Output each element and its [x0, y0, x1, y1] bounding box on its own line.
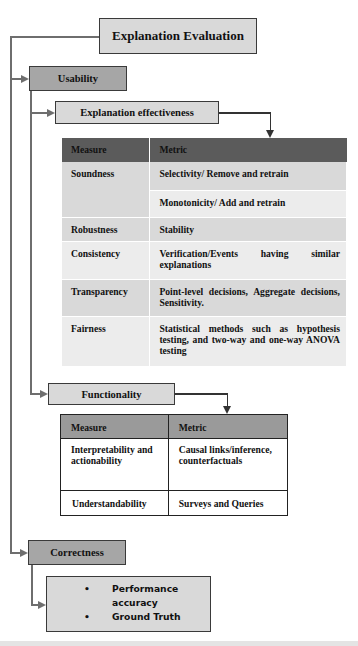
table-header-row: Measure Metric	[61, 415, 288, 439]
cell-metric: Statistical methods such as hypothesis t…	[150, 316, 347, 366]
node-explanation-effectiveness: Explanation effectiveness	[55, 101, 219, 124]
cell-metric: Causal links/inference, counterfactuals	[168, 439, 287, 491]
table-row: Transparency Point-level decisions, Aggr…	[62, 279, 347, 316]
arrow-down-icon	[223, 406, 231, 414]
cell-measure: Understandability	[61, 491, 169, 516]
connector-ee-to-table-down	[270, 112, 272, 131]
arrow-right-icon	[21, 75, 29, 83]
cell-metric: Surveys and Queries	[168, 491, 287, 516]
arrow-right-icon	[38, 601, 46, 609]
connector-ee-to-table	[219, 112, 271, 114]
cell-measure: Interpretability and actionability	[61, 439, 169, 491]
table-header-row: Measure Metric	[62, 138, 347, 162]
list-item-text: Performance accuracy	[112, 582, 182, 610]
list-item: • Performance accuracy	[62, 582, 210, 610]
cell-measure: Robustness	[62, 217, 150, 241]
header-measure: Measure	[61, 415, 169, 439]
arrow-right-icon	[40, 390, 48, 398]
arrow-right-icon	[47, 109, 55, 117]
root-node-label: Explanation Evaluation	[112, 28, 244, 44]
table-row: Consistency Verification/Events having s…	[62, 241, 347, 279]
cell-metric: Monotonicity/ Add and retrain	[150, 190, 347, 217]
arrow-down-icon	[266, 130, 274, 138]
table-row: Understandability Surveys and Queries	[61, 491, 288, 516]
connector-root-horizontal	[11, 36, 99, 38]
node-correctness: Correctness	[28, 540, 126, 565]
list-item-text: Ground Truth	[112, 610, 181, 624]
node-correctness-details: • Performance accuracy • Ground Truth	[46, 576, 211, 632]
bottom-edge-band	[0, 641, 358, 646]
table-row: Fairness Statistical methods such as hyp…	[62, 316, 347, 366]
connector-correctness-spine	[31, 565, 33, 606]
usability-label: Usability	[58, 73, 98, 84]
connector-func-to-table-down	[227, 393, 229, 407]
bullet-icon: •	[62, 610, 112, 624]
header-metric: Metric	[168, 415, 287, 439]
connector-usability-spine	[30, 91, 32, 395]
functionality-label: Functionality	[81, 389, 141, 400]
correctness-label: Correctness	[50, 547, 103, 558]
cell-measure: Fairness	[62, 316, 150, 366]
table-row: Soundness Selectivity/ Remove and retrai…	[62, 162, 347, 190]
list-item: • Ground Truth	[62, 610, 210, 624]
connector-to-explanation-effectiveness	[31, 112, 48, 114]
cell-metric: Verification/Events having similar expla…	[150, 241, 347, 279]
table-row: Robustness Stability	[62, 217, 347, 241]
header-measure: Measure	[62, 138, 150, 162]
correctness-bullet-list: • Performance accuracy • Ground Truth	[62, 582, 210, 624]
header-metric: Metric	[150, 138, 347, 162]
root-node-explanation-evaluation: Explanation Evaluation	[99, 18, 257, 54]
explanation-effectiveness-label: Explanation effectiveness	[80, 107, 193, 118]
node-usability: Usability	[29, 66, 127, 91]
cell-measure: Soundness	[62, 162, 150, 217]
explanation-effectiveness-table: Measure Metric Soundness Selectivity/ Re…	[62, 138, 347, 367]
connector-func-to-table	[175, 393, 228, 395]
cell-measure: Consistency	[62, 241, 150, 279]
table-row: Interpretability and actionability Causa…	[61, 439, 288, 491]
cell-measure: Transparency	[62, 279, 150, 316]
arrow-right-icon	[20, 549, 28, 557]
cell-metric: Selectivity/ Remove and retrain	[150, 162, 347, 190]
connector-main-spine	[10, 36, 12, 554]
cell-metric: Point-level decisions, Aggregate decisio…	[150, 279, 347, 316]
cell-metric: Stability	[150, 217, 347, 241]
node-functionality: Functionality	[48, 383, 175, 405]
functionality-table: Measure Metric Interpretability and acti…	[60, 414, 288, 516]
bullet-icon: •	[62, 582, 112, 610]
